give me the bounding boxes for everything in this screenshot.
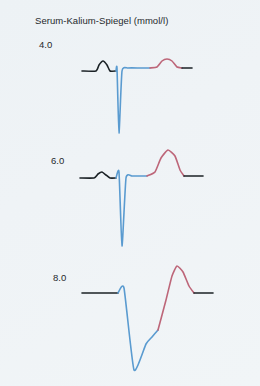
ecg-segment-1-baseline-p-wave bbox=[82, 61, 116, 71]
ecg-figure: Serum-Kalium-Spiegel (mmol/l) 4.0 6.0 8.… bbox=[0, 0, 260, 386]
ecg-trace-group bbox=[80, 59, 213, 371]
ecg-segment-2-t-wave bbox=[147, 150, 184, 176]
ecg-segment-3-t-wave bbox=[158, 266, 194, 330]
ecg-traces bbox=[0, 0, 260, 386]
ecg-segment-1-qrs-complex bbox=[116, 66, 150, 133]
ecg-segment-2-qrs-complex bbox=[116, 170, 147, 246]
ecg-segment-2-baseline-p-wave bbox=[80, 172, 116, 178]
ecg-segment-1-t-wave bbox=[150, 59, 182, 68]
ecg-segment-3-qrs-complex bbox=[118, 286, 158, 371]
